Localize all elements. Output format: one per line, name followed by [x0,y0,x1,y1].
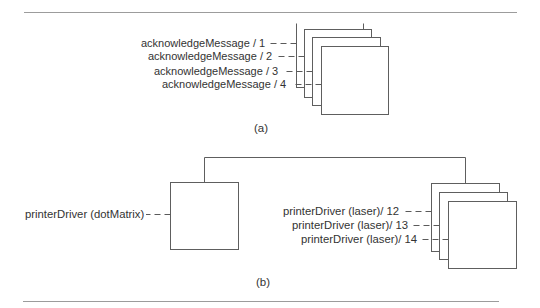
figure: acknowledgeMessage / 1 acknowledgeMessag… [0,0,540,308]
object-label: acknowledgeMessage / 1 [141,37,265,50]
dotmatrix-label: printerDriver (dotMatrix) [25,208,144,221]
object-box-4 [321,46,389,115]
tree-connector [205,158,466,184]
laser-label: printerDriver (laser)/ 13 [292,219,408,232]
object-label: acknowledgeMessage / 4 [162,78,286,91]
laser-object-box-3 [448,201,517,269]
caption-a: (a) [249,122,273,135]
dotmatrix-object-box [170,182,239,250]
laser-label: printerDriver (laser)/ 14 [301,233,417,246]
object-label: acknowledgeMessage / 2 [148,50,272,63]
laser-label: printerDriver (laser)/ 12 [283,205,399,218]
object-label: acknowledgeMessage / 3 [154,65,278,78]
caption-b: (b) [251,276,275,289]
